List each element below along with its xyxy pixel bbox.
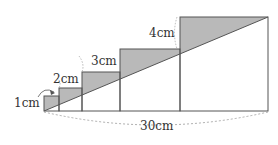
diagram-canvas: 1cm 2cm 3cm 4cm 30cm <box>0 0 278 145</box>
bracket-3cm <box>79 56 83 72</box>
bracket-4cm <box>175 17 178 49</box>
label-3cm: 3cm <box>91 54 117 68</box>
label-4cm: 4cm <box>149 26 175 40</box>
label-2cm: 2cm <box>53 72 79 86</box>
staircase-diagram: 1cm 2cm 3cm 4cm 30cm <box>0 0 278 145</box>
label-1cm: 1cm <box>14 96 40 110</box>
label-30cm: 30cm <box>140 119 174 133</box>
